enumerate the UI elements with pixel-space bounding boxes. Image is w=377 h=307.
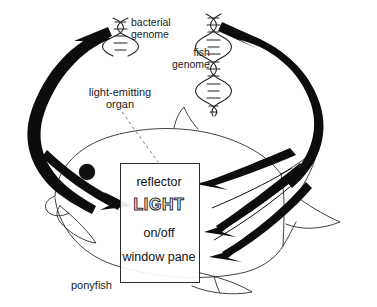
light-emitting-organ-label: light-emitting organ [68, 86, 172, 111]
organ-component-reflector: reflector [120, 175, 198, 189]
organ-component-onoff: on/off [120, 226, 198, 240]
diagram-canvas: bacterial genome fish genome light-emitt… [0, 0, 377, 307]
organ-label-leader-line [122, 112, 158, 162]
organ-component-light: LIGHT [120, 196, 198, 214]
fish-genome-label: fish genome [172, 47, 210, 71]
bacterial-genome-label: bacterial genome [131, 17, 171, 41]
ponyfish-label: ponyfish [71, 279, 112, 291]
organ-component-window-pane: window pane [120, 250, 198, 265]
